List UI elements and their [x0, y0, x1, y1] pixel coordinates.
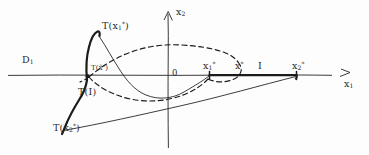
label-image-x2-star: T(x2*)	[53, 122, 80, 133]
label-point-x2-star: x2*	[292, 60, 304, 71]
dashed-lens-lower-path	[89, 77, 208, 101]
label-image-xbar-star: T(x̄*)	[91, 64, 108, 72]
label-interval-i: I	[258, 60, 262, 71]
dashed-region-group	[80, 45, 241, 101]
label-point-x1-star: x1*	[203, 60, 215, 71]
label-origin: 0	[172, 68, 178, 78]
label-x-axis: x1	[344, 78, 353, 89]
peak-thick-path	[86, 31, 99, 80]
label-image-interval: T(I)	[78, 86, 96, 97]
x-axis-arrow-icon	[340, 69, 350, 77]
label-domain-line: D1	[22, 54, 34, 65]
label-y-axis: x2	[176, 6, 185, 17]
lower-sweep-thin-path	[66, 77, 296, 131]
label-image-x1-star: T(x1*)	[102, 20, 129, 31]
point-left-crossing-dot	[86, 74, 90, 78]
thin-curve-group	[66, 36, 296, 130]
dashed-lens-upper-path	[89, 45, 238, 77]
thick-curve-group	[62, 31, 297, 134]
figure-root: D1 T(x1*) T(x̄*) T(I) T(x2*) x1* x* I x2…	[0, 0, 369, 155]
label-point-x-star: x*	[235, 60, 244, 71]
